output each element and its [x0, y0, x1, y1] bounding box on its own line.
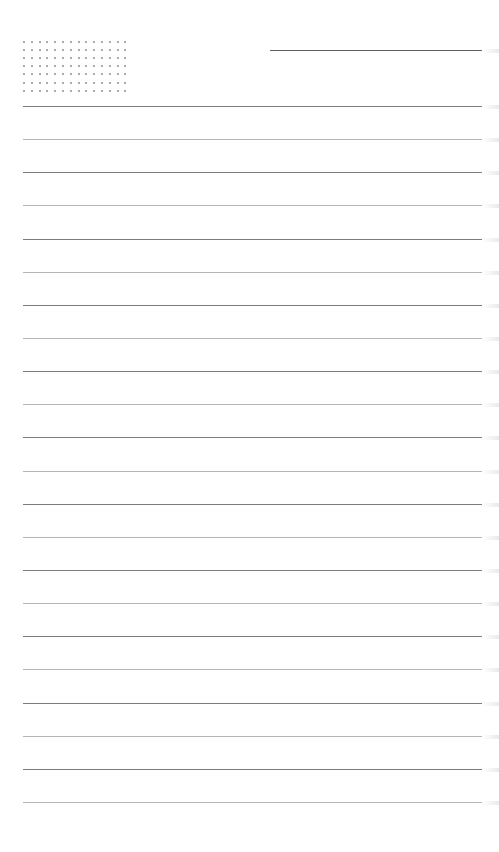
grid-dot [39, 65, 41, 67]
grid-dot [109, 82, 111, 84]
edge-shadow [482, 735, 499, 739]
grid-dot [117, 82, 119, 84]
ruled-line [23, 371, 482, 372]
edge-shadow [482, 768, 499, 772]
edge-shadow [482, 668, 499, 672]
grid-dot [39, 57, 41, 59]
grid-dot [78, 73, 80, 75]
grid-dot [46, 41, 48, 43]
grid-dot [101, 57, 103, 59]
grid-dot [54, 41, 56, 43]
ruled-line [23, 205, 482, 206]
grid-dot [23, 49, 25, 51]
grid-dot [54, 65, 56, 67]
grid-dot [124, 49, 126, 51]
grid-dot [109, 57, 111, 59]
edge-shadow [482, 138, 499, 142]
grid-dot [23, 65, 25, 67]
grid-dot [117, 49, 119, 51]
ruled-line [23, 703, 482, 704]
grid-dot [46, 57, 48, 59]
grid-dot [46, 73, 48, 75]
grid-dot [78, 82, 80, 84]
grid-dot [93, 90, 95, 92]
grid-dot [124, 73, 126, 75]
grid-dot [23, 82, 25, 84]
grid-dot [109, 41, 111, 43]
grid-dot [70, 82, 72, 84]
grid-dot [85, 49, 87, 51]
grid-dot [101, 73, 103, 75]
ruled-line [23, 239, 482, 240]
grid-dot [117, 90, 119, 92]
edge-shadow [482, 204, 499, 208]
ruled-line [23, 669, 482, 670]
grid-dot [124, 57, 126, 59]
grid-dot [62, 57, 64, 59]
ruled-line [23, 305, 482, 306]
grid-dot [39, 73, 41, 75]
grid-dot [62, 73, 64, 75]
grid-dot [85, 73, 87, 75]
grid-dot [31, 90, 33, 92]
grid-dot [54, 57, 56, 59]
grid-dot [31, 41, 33, 43]
grid-dot [85, 90, 87, 92]
grid-dot [70, 73, 72, 75]
grid-dot [85, 41, 87, 43]
grid-dot [117, 73, 119, 75]
ruled-line [23, 736, 482, 737]
grid-dot [93, 73, 95, 75]
edge-shadow [482, 602, 499, 606]
ruled-line [23, 172, 482, 173]
grid-dot [31, 49, 33, 51]
grid-dot [85, 57, 87, 59]
edge-shadow [482, 569, 499, 573]
grid-dot [85, 65, 87, 67]
edge-shadow [482, 171, 499, 175]
grid-dot [109, 65, 111, 67]
grid-dot [54, 73, 56, 75]
title-underline [270, 50, 482, 51]
ruled-line [23, 338, 482, 339]
grid-dot [78, 41, 80, 43]
grid-dot [124, 65, 126, 67]
grid-dot [93, 57, 95, 59]
grid-dot [78, 57, 80, 59]
grid-dot [124, 90, 126, 92]
grid-dot [54, 49, 56, 51]
grid-dot [78, 65, 80, 67]
ruled-line [23, 106, 482, 107]
grid-dot [62, 41, 64, 43]
grid-dot [62, 82, 64, 84]
grid-dot [46, 65, 48, 67]
dot-grid-decoration [20, 38, 130, 94]
grid-dot [78, 49, 80, 51]
edge-shadow [482, 503, 499, 507]
grid-dot [62, 65, 64, 67]
grid-dot [62, 49, 64, 51]
grid-dot [23, 41, 25, 43]
grid-dot [31, 82, 33, 84]
edge-shadow [482, 271, 499, 275]
grid-dot [124, 41, 126, 43]
ruled-line [23, 139, 482, 140]
grid-dot [117, 65, 119, 67]
edge-shadow [482, 370, 499, 374]
grid-dot [39, 41, 41, 43]
grid-dot [101, 41, 103, 43]
ruled-line [23, 437, 482, 438]
ruled-line [23, 769, 482, 770]
grid-dot [39, 90, 41, 92]
grid-dot [85, 82, 87, 84]
grid-dot [109, 49, 111, 51]
edge-shadow [482, 536, 499, 540]
ruled-line [23, 570, 482, 571]
grid-dot [101, 82, 103, 84]
grid-dot [54, 82, 56, 84]
grid-dot [101, 90, 103, 92]
grid-dot [62, 90, 64, 92]
edge-shadow [482, 801, 499, 805]
grid-dot [23, 90, 25, 92]
grid-dot [93, 49, 95, 51]
